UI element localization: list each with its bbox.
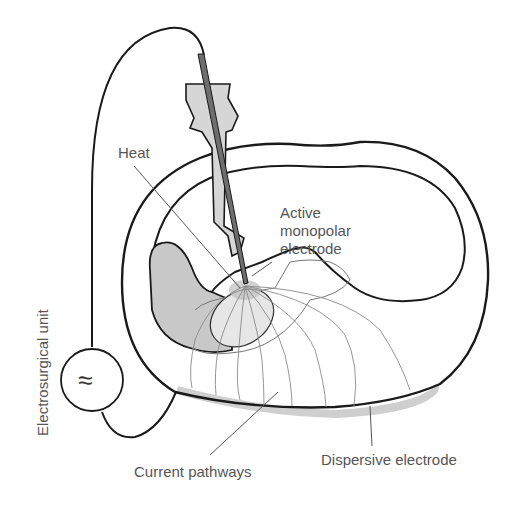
electrosurgical-unit-label: Electrosurgical unit [34, 309, 51, 436]
active-electrode-label-line3: electrode [280, 240, 342, 258]
active-electrode-label-line1: Active [280, 204, 321, 222]
electrosurgery-diagram [0, 0, 524, 510]
active-electrode-label-line2: monopolar [280, 222, 351, 240]
generator-symbol-icon: ≈ [78, 366, 92, 394]
dispersive-electrode-label: Dispersive electrode [321, 451, 457, 469]
handpiece [186, 54, 248, 284]
heat-label: Heat [118, 144, 150, 162]
current-pathways-label: Current pathways [134, 463, 252, 481]
